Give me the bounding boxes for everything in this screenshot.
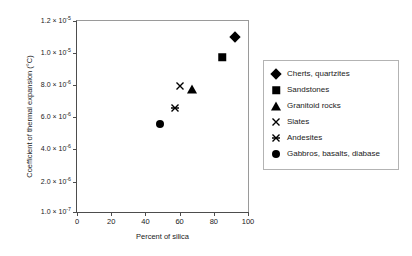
legend-label: Granitoid rocks [287, 101, 341, 111]
x-tick-label: 40 [141, 217, 149, 226]
y-tick-mark [73, 53, 77, 54]
data-point-marker [219, 53, 227, 61]
legend-item[interactable]: Slates [269, 114, 394, 130]
legend-item[interactable]: Andesites [269, 130, 394, 146]
x-tick-mark [248, 212, 249, 216]
legend-label: Slates [287, 117, 309, 127]
legend-symbol [269, 83, 283, 97]
data-point-marker [230, 31, 241, 42]
legend-label: Cherts, quartzites [287, 69, 350, 79]
y-tick-exponent: -5 [66, 47, 71, 53]
y-tick-mark [73, 21, 77, 22]
legend-triangle-marker-icon [271, 102, 281, 111]
y-tick-mark [73, 117, 77, 118]
legend-item[interactable]: Sandstones [269, 82, 394, 98]
legend-symbol [269, 147, 283, 161]
legend-label: Sandstones [287, 85, 329, 95]
x-tick-label: 80 [210, 217, 218, 226]
y-tick-exponent: -6 [66, 175, 71, 181]
legend-item[interactable]: Cherts, quartzites [269, 66, 394, 82]
y-tick-label: 1.0 × 10-5 [41, 49, 71, 57]
y-tick-label: 2.0 × 10-6 [41, 178, 71, 186]
y-tick-label: 8.0 × 10-6 [41, 81, 71, 89]
y-tick-exponent: -6 [66, 143, 71, 149]
legend-cross-marker-icon [272, 118, 281, 127]
data-point-marker [156, 120, 164, 128]
x-tick-label: 0 [75, 217, 79, 226]
data-point-marker [175, 82, 184, 91]
legend-label: Gabbros, basalts, diabase [287, 149, 380, 159]
x-tick-mark [111, 212, 112, 216]
x-tick-label: 60 [175, 217, 183, 226]
legend-symbol [269, 99, 283, 113]
legend-diamond-marker-icon [270, 68, 281, 79]
legend-symbol [269, 67, 283, 81]
y-tick-label: 6.0 × 10-6 [41, 113, 71, 121]
x-tick-label: 100 [242, 217, 255, 226]
legend-item[interactable]: Gabbros, basalts, diabase [269, 146, 394, 162]
legend-label: Andesites [287, 133, 322, 143]
legend-symbol [269, 131, 283, 145]
chart-figure: Coefficient of thermal expansion (°C) 1.… [0, 0, 412, 256]
x-tick-label: 20 [107, 217, 115, 226]
data-point-marker [187, 85, 197, 94]
x-tick-mark [180, 212, 181, 216]
legend-symbol [269, 115, 283, 129]
legend-item[interactable]: Granitoid rocks [269, 98, 394, 114]
legend-square-marker-icon [272, 86, 280, 94]
y-tick-exponent: -5 [66, 15, 71, 21]
y-axis-title: Coefficient of thermal expansion (°C) [24, 20, 36, 213]
x-tick-mark [77, 212, 78, 216]
y-tick-label: 4.0 × 10-6 [41, 145, 71, 153]
x-axis-title: Percent of silica [76, 232, 249, 241]
y-tick-mark [73, 85, 77, 86]
legend-circle-marker-icon [272, 150, 280, 158]
legend: Cherts, quartzitesSandstonesGranitoid ro… [263, 60, 399, 170]
plot-area: 1.0 × 10-72.0 × 10-64.0 × 10-66.0 × 10-6… [76, 20, 249, 213]
y-tick-label: 1.2 × 10-5 [41, 17, 71, 25]
y-tick-exponent: -6 [66, 79, 71, 85]
x-tick-mark [145, 212, 146, 216]
y-tick-exponent: -6 [66, 111, 71, 117]
data-point-marker [171, 103, 180, 112]
y-tick-label: 1.0 × 10-7 [41, 208, 71, 216]
x-tick-mark [214, 212, 215, 216]
y-tick-mark [73, 149, 77, 150]
y-tick-exponent: -7 [66, 206, 71, 212]
legend-cross-bar-marker-icon [272, 134, 281, 143]
y-tick-mark [73, 182, 77, 183]
